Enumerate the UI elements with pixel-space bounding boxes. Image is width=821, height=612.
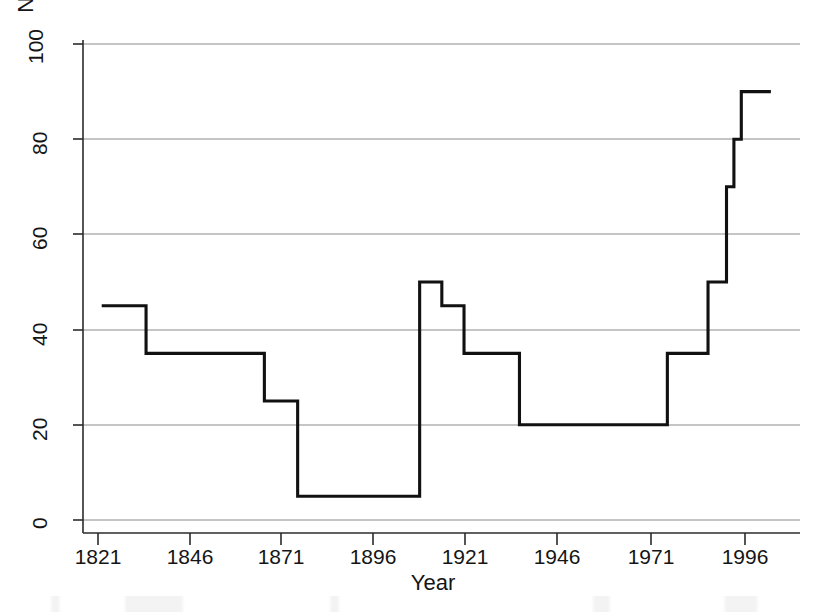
x-tick-label-1821: 1821 bbox=[58, 545, 138, 569]
x-tick-label-1971: 1971 bbox=[611, 545, 691, 569]
x-tick-label-1896: 1896 bbox=[333, 545, 413, 569]
y-tick-label-100: 100 bbox=[24, 28, 56, 64]
scan-artifact bbox=[0, 596, 821, 612]
y-tick-label-60: 60 bbox=[28, 222, 60, 250]
polity-score-line bbox=[102, 92, 771, 497]
x-tick-label-1946: 1946 bbox=[517, 545, 597, 569]
x-tick-label-1846: 1846 bbox=[150, 545, 230, 569]
y-tick-label-40: 40 bbox=[28, 318, 60, 346]
y-tick-marks bbox=[73, 44, 83, 520]
plot-area bbox=[0, 0, 821, 612]
polity-score-chart-figure: Normalized polity score (0 to 100) 100 8… bbox=[0, 0, 821, 612]
x-tick-label-1921: 1921 bbox=[425, 545, 505, 569]
x-axis-title: Year bbox=[83, 570, 783, 596]
y-tick-label-0: 0 bbox=[28, 515, 60, 529]
y-tick-label-80: 80 bbox=[28, 127, 60, 155]
x-tick-label-1871: 1871 bbox=[241, 545, 321, 569]
x-tick-label-1996: 1996 bbox=[705, 545, 785, 569]
x-tick-marks bbox=[98, 533, 745, 545]
y-tick-label-20: 20 bbox=[28, 413, 60, 441]
